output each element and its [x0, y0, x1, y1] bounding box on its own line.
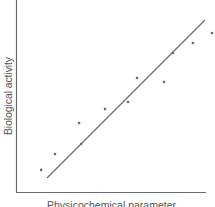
plot-axes [16, 0, 206, 193]
y-axis-label: Biological activity [1, 50, 15, 142]
data-point [163, 81, 166, 84]
data-point [211, 32, 214, 35]
x-axis-label: Physicochemical parameter [0, 199, 215, 207]
regression-line [47, 20, 205, 178]
data-point [54, 153, 57, 156]
data-point [78, 122, 81, 125]
data-point [40, 169, 43, 172]
data-point [172, 52, 175, 55]
y-axis-label-text: Biological activity [2, 57, 14, 135]
scatter-plot [0, 0, 215, 207]
data-points [40, 32, 214, 172]
data-point [80, 143, 83, 146]
data-point [104, 108, 107, 111]
data-point [127, 101, 130, 104]
data-point [136, 77, 139, 80]
data-point [192, 42, 195, 45]
